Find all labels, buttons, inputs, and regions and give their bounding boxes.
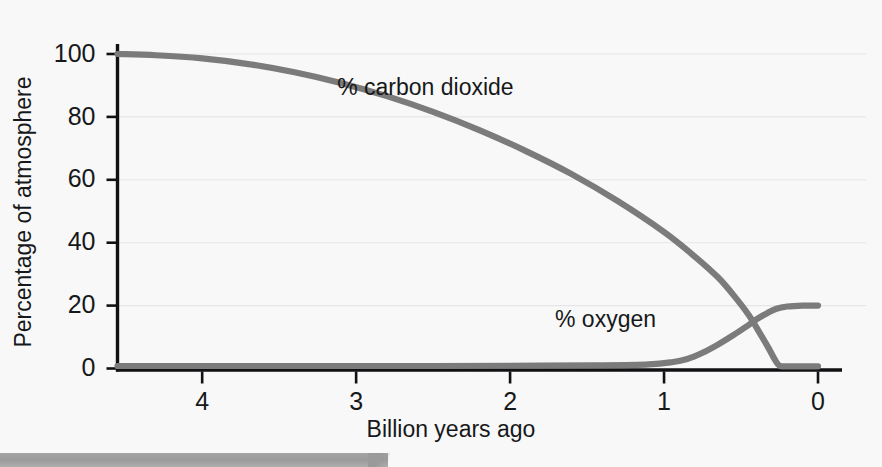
y-tick-label-60: 60 (68, 164, 96, 192)
series-label-carbon-dioxide: % carbon dioxide (337, 74, 513, 100)
y-tick-label-40: 40 (68, 227, 96, 255)
x-tick-label-2: 2 (503, 387, 517, 415)
atmosphere-composition-figure: 020406080100 43210 % carbon dioxide% oxy… (0, 0, 882, 467)
y-axis-title: Percentage of atmosphere (10, 76, 36, 347)
x-tick-label-3: 3 (349, 387, 363, 415)
y-tick-label-80: 80 (68, 102, 96, 130)
series-label-oxygen: % oxygen (555, 306, 656, 332)
y-tick-label-20: 20 (68, 290, 96, 318)
x-tick-label-0: 0 (811, 387, 825, 415)
x-tick-label-4: 4 (195, 387, 209, 415)
y-tick-label-0: 0 (82, 353, 96, 381)
x-axis-title: Billion years ago (367, 416, 536, 442)
y-tick-label-100: 100 (54, 39, 96, 67)
x-tick-label-1: 1 (657, 387, 671, 415)
chart-background (0, 0, 882, 467)
atmosphere-composition-chart: 020406080100 43210 % carbon dioxide% oxy… (0, 0, 882, 467)
footer-accent-bar-taper (368, 453, 394, 467)
footer-accent-bar (0, 453, 388, 467)
